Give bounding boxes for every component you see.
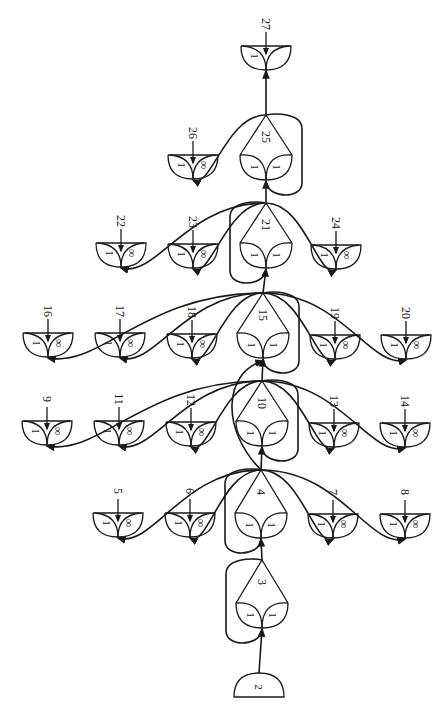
leaf-node-26[interactable]: 1∞26 xyxy=(168,127,218,179)
edge-15-16 xyxy=(48,293,263,359)
petal-right-value: ∞ xyxy=(338,429,352,438)
petal-left-value: 1 xyxy=(102,428,114,434)
petal-left-value: 1 xyxy=(249,164,261,170)
petal-left-value: 1 xyxy=(389,342,401,348)
petal-left-value: 1 xyxy=(388,521,400,527)
petal-right-value: ∞ xyxy=(410,341,424,350)
hub-label: 21 xyxy=(259,219,273,231)
petal-right-value: ∞ xyxy=(195,428,209,437)
hub-node-15[interactable]: 1511 xyxy=(237,293,289,358)
leaf-label: 16 xyxy=(41,305,55,317)
petal-right-value: ∞ xyxy=(122,519,136,528)
petal-right-value: ∞ xyxy=(51,427,65,436)
petal-right-value: ∞ xyxy=(196,340,210,349)
leaf-label: 20 xyxy=(399,307,413,319)
hub-label: 3 xyxy=(255,579,269,585)
petal-right-value: ∞ xyxy=(124,339,138,348)
leaf-node-12[interactable]: 1∞12 xyxy=(166,394,216,446)
petal-left-value: 1 xyxy=(316,521,328,527)
petal-left-value: 1 xyxy=(244,522,256,528)
leaf-node-16[interactable]: 1∞16 xyxy=(23,305,73,357)
petal-left-value: 1 xyxy=(175,341,187,347)
leaf-node-13[interactable]: 1∞13 xyxy=(309,395,359,447)
leaf-label: 13 xyxy=(327,395,341,407)
hub-node-25[interactable]: 2511 xyxy=(240,115,292,180)
petal-left-value: 1 xyxy=(176,162,188,168)
node-2[interactable]: 2 xyxy=(234,673,284,697)
leaf-label: 5 xyxy=(111,488,125,494)
leaf-node-9[interactable]: 1∞9 xyxy=(22,396,72,445)
leaf-label: 23 xyxy=(186,216,200,228)
leaf-label: 19 xyxy=(328,307,342,319)
diagram-svg: 231141110111511211125111∞51∞61∞71∞81∞91∞… xyxy=(0,0,442,710)
leaf-node-19[interactable]: 1∞19 xyxy=(310,307,360,359)
leaf-node-11[interactable]: 1∞11 xyxy=(94,393,144,445)
leaf-node-23[interactable]: 1∞23 xyxy=(168,216,218,268)
edges-layer xyxy=(47,71,406,673)
petal-right-value: ∞ xyxy=(337,520,351,529)
petal-right-value: ∞ xyxy=(409,429,423,438)
leaf-node-22[interactable]: 1∞22 xyxy=(96,215,146,267)
leaf-label: 18 xyxy=(185,306,199,318)
edge-25-26 xyxy=(193,115,266,181)
petal-left-value: 1 xyxy=(173,520,185,526)
leaf-label: 26 xyxy=(186,127,200,139)
leaf-node-5[interactable]: 1∞5 xyxy=(93,488,143,537)
loop-4 xyxy=(225,469,261,553)
leaf-label: 11 xyxy=(112,393,126,405)
petal-left-value: 1 xyxy=(318,342,330,348)
hub-node-3[interactable]: 311 xyxy=(236,560,288,628)
leaf-label: 8 xyxy=(398,489,412,495)
leaf-node-24[interactable]: 1∞24 xyxy=(311,217,361,269)
petal-right-value: 1 xyxy=(271,164,283,170)
edge-10-12 xyxy=(191,381,262,448)
hub-label: 25 xyxy=(259,131,273,143)
edge-4-7 xyxy=(261,470,333,540)
hub-label: 4 xyxy=(254,489,268,495)
edge-15-18 xyxy=(192,293,263,360)
leaf-label: 14 xyxy=(398,395,412,407)
loop-3 xyxy=(226,559,262,643)
petal-right-value: ∞ xyxy=(197,161,211,170)
petal-left-value: 1 xyxy=(103,340,115,346)
hub-node-4[interactable]: 411 xyxy=(235,470,287,538)
edge-21-24 xyxy=(266,203,336,271)
petal-left-value: 1 xyxy=(31,340,43,346)
petal-left-value: 1 xyxy=(317,430,329,436)
petal-right-value: 1 xyxy=(267,612,279,618)
petal-left-value: 1 xyxy=(246,342,258,348)
petal-right-value: ∞ xyxy=(340,251,354,260)
leaf-label: 17 xyxy=(113,305,127,317)
leaf-label: 7 xyxy=(326,489,340,495)
petal-divider xyxy=(266,46,289,70)
petal-right-value: 1 xyxy=(266,522,278,528)
petal-right-value: ∞ xyxy=(197,250,211,259)
leaf-node-8[interactable]: 1∞8 xyxy=(380,489,430,538)
leaf-node-18[interactable]: 1∞18 xyxy=(167,306,217,358)
petal-left-value: 1 xyxy=(174,429,186,435)
petal-left-value: 1 xyxy=(245,612,257,618)
petal-right-value: ∞ xyxy=(123,427,137,436)
edge-10-9 xyxy=(47,381,262,447)
petal-left-value: 1 xyxy=(176,251,188,257)
hub-node-21[interactable]: 2111 xyxy=(240,203,292,268)
petal-right-value: ∞ xyxy=(52,339,66,348)
petal-left-value: 1 xyxy=(249,252,261,258)
petal-left-value: 1 xyxy=(104,250,116,256)
leaf-label: 6 xyxy=(183,488,197,494)
edge-4-15-arc xyxy=(232,361,263,470)
petal-right-value: ∞ xyxy=(194,519,208,528)
hub-label: 15 xyxy=(256,309,270,321)
leaf-node-20[interactable]: 1∞20 xyxy=(381,307,431,359)
hub-node-10[interactable]: 1011 xyxy=(236,381,288,446)
leaf-node-17[interactable]: 1∞17 xyxy=(95,305,145,357)
petal-right-value: 1 xyxy=(267,430,279,436)
leaf-node-27[interactable]: 127 xyxy=(241,18,291,70)
leaf-node-14[interactable]: 1∞14 xyxy=(380,395,430,447)
leaf-label: 24 xyxy=(329,217,343,229)
hub-label: 10 xyxy=(255,397,269,409)
petal-left-value: 1 xyxy=(101,520,113,526)
petal-left-value: 1 xyxy=(30,428,42,434)
leaf-label: 27 xyxy=(259,18,273,30)
petal-left-value: 1 xyxy=(388,430,400,436)
